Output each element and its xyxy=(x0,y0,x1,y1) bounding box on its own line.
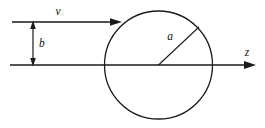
z-axis-arrowhead xyxy=(244,61,256,69)
impact-parameter-label: b xyxy=(39,37,45,49)
incident-beam-arrowhead xyxy=(110,18,122,26)
radius-line xyxy=(159,27,200,65)
radius-label: a xyxy=(167,30,173,42)
velocity-label: v xyxy=(55,5,61,17)
z-axis-label: z xyxy=(244,46,250,58)
scattering-diagram: v b a z xyxy=(0,0,265,128)
diagram-canvas: v b a z xyxy=(0,0,265,128)
